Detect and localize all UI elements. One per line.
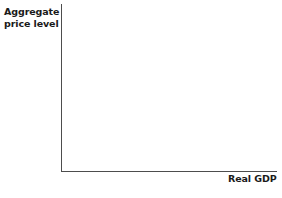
x-axis-label: Real GDP	[228, 173, 277, 185]
plot-area	[62, 4, 277, 171]
x-axis-line	[61, 171, 277, 172]
y-axis-label-line-1: Aggregate	[4, 6, 58, 18]
y-axis-label: Aggregate price level	[4, 6, 58, 29]
graph-screenshot: Aggregate price level Real GDP	[0, 0, 282, 198]
y-axis-label-line-2: price level	[4, 18, 58, 30]
empty-ad-as-graph: Aggregate price level Real GDP	[0, 0, 282, 198]
y-axis-line	[61, 4, 62, 172]
